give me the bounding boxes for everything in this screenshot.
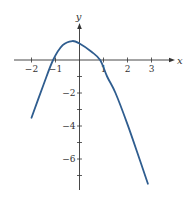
x-axis-label: x — [177, 55, 183, 66]
x-axis-arrow-icon — [169, 58, 175, 63]
y-axis-label: y — [75, 11, 82, 22]
y-axis-arrow-icon — [77, 23, 82, 29]
function-curve — [32, 41, 148, 184]
x-tick-label: 2 — [125, 64, 131, 74]
y-tick-label: −4 — [62, 121, 76, 131]
ticks — [32, 58, 152, 176]
x-tick-label: −2 — [25, 64, 38, 74]
y-tick-label: −6 — [62, 154, 76, 164]
axes — [14, 23, 175, 190]
y-tick-label: −2 — [62, 88, 75, 98]
x-tick-label: 3 — [149, 64, 155, 74]
function-graph: −2−1123−2−4−6 x y — [0, 0, 183, 198]
